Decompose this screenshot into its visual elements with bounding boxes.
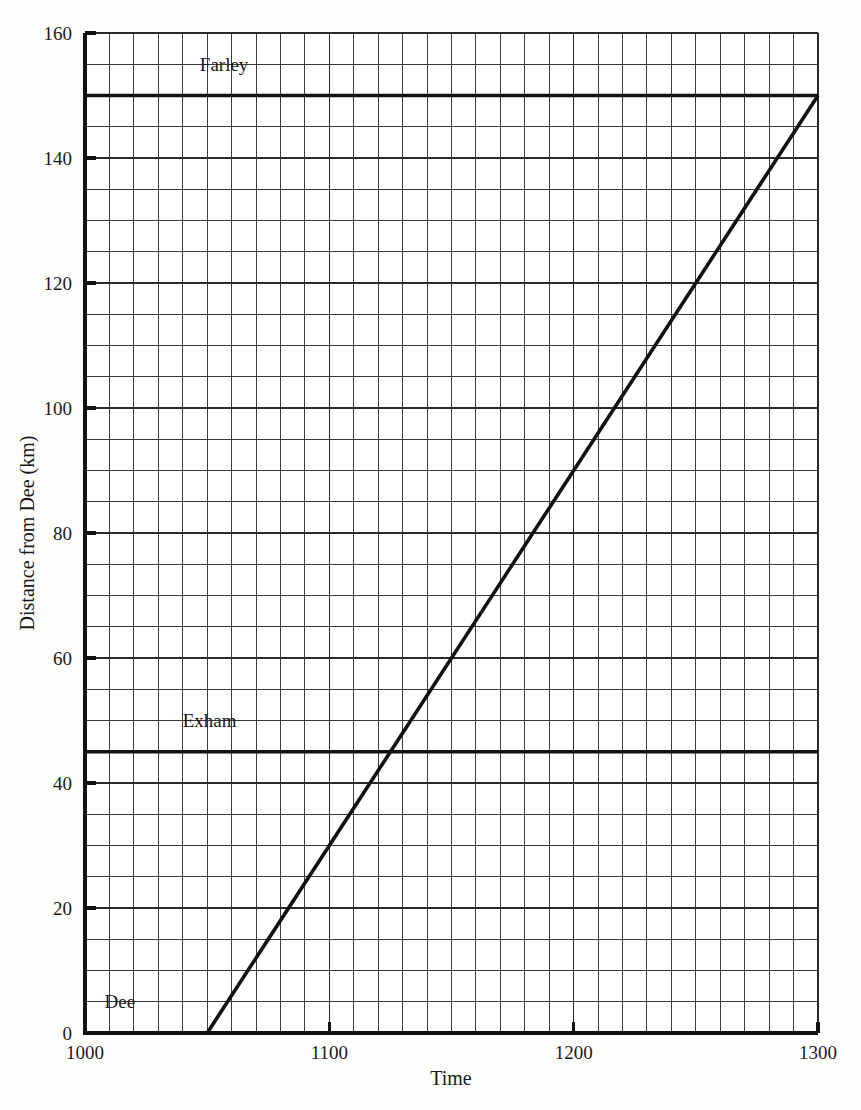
y-tick-label: 80 (53, 523, 72, 544)
y-tick-label: 40 (53, 773, 72, 794)
y-tick-label: 20 (53, 898, 72, 919)
x-tick-label: 1300 (799, 1042, 837, 1063)
x-tick-label: 1200 (555, 1042, 593, 1063)
y-tick-label: 60 (53, 648, 72, 669)
y-tick-label: 120 (44, 273, 73, 294)
travel-graph-figure: 1000110012001300 020406080100120140160 F… (0, 0, 861, 1110)
station-label-dee: Dee (105, 991, 136, 1012)
station-label-farley: Farley (200, 54, 249, 75)
x-tick-label: 1000 (66, 1042, 104, 1063)
distance-time-chart: 1000110012001300 020406080100120140160 F… (0, 0, 861, 1110)
y-tick-label: 140 (44, 148, 73, 169)
y-tick-label: 100 (44, 398, 73, 419)
x-tick-label: 1100 (311, 1042, 348, 1063)
y-tick-label: 160 (44, 23, 73, 44)
x-axis-title: Time (430, 1067, 472, 1089)
station-label-exham: Exham (183, 710, 237, 731)
y-tick-label: 0 (63, 1023, 73, 1044)
y-axis-title: Distance from Dee (km) (16, 436, 39, 631)
